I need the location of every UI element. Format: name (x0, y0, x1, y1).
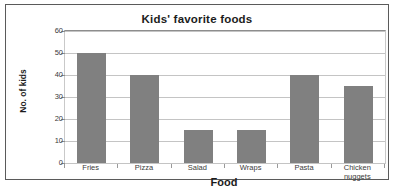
x-axis-tickmark (331, 164, 332, 168)
y-axis-tick-label: 40 (37, 70, 63, 79)
bar-series (65, 31, 385, 163)
y-axis-tick-label: 60 (37, 26, 63, 35)
plot-area: 0102030405060 (64, 30, 386, 164)
y-axis-tick-label: 0 (37, 158, 63, 167)
x-axis-tickmark (117, 164, 118, 168)
bar[interactable] (184, 130, 213, 163)
y-axis-title: No. of kids (18, 56, 28, 126)
x-axis-title: Food (64, 176, 384, 187)
chart-frame: Kids' favorite foods No. of kids 0102030… (5, 4, 389, 180)
bar-slot (65, 31, 118, 163)
x-axis-tickmark (64, 164, 65, 168)
chart-title: Kids' favorite foods (9, 13, 385, 25)
bar-slot (225, 31, 278, 163)
chart-canvas: Kids' favorite foods No. of kids 0102030… (9, 8, 385, 176)
y-axis-tick-label: 50 (37, 48, 63, 57)
bar-slot (172, 31, 225, 163)
bar-slot (332, 31, 385, 163)
y-axis-tick-label: 20 (37, 114, 63, 123)
x-axis-tickmark (384, 164, 385, 168)
bar-slot (118, 31, 171, 163)
bar-slot (278, 31, 331, 163)
bar[interactable] (237, 130, 266, 163)
y-axis-tick-label: 10 (37, 136, 63, 145)
bar[interactable] (344, 86, 373, 163)
x-axis-tickmark (224, 164, 225, 168)
bar[interactable] (77, 53, 106, 163)
bar[interactable] (130, 75, 159, 163)
x-axis-tickmark (171, 164, 172, 168)
x-axis-tickmark (277, 164, 278, 168)
y-axis-tick-label: 30 (37, 92, 63, 101)
bar[interactable] (290, 75, 319, 163)
